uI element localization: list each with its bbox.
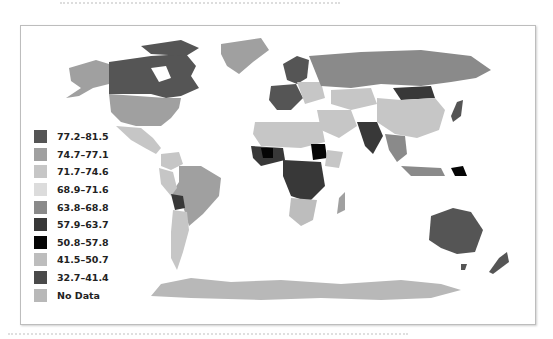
legend-item: 68.9–71.6 bbox=[34, 181, 109, 199]
legend-item: No Data bbox=[34, 286, 109, 304]
legend-swatch bbox=[34, 148, 47, 161]
legend-swatch bbox=[34, 218, 47, 231]
legend-swatch bbox=[34, 165, 47, 178]
region-tasmania bbox=[461, 264, 467, 270]
legend-swatch bbox=[34, 253, 47, 266]
region-kazakhstan bbox=[331, 88, 377, 110]
region-central-africa bbox=[283, 160, 325, 202]
legend-item: 63.8–68.8 bbox=[34, 198, 109, 216]
region-png bbox=[451, 166, 467, 176]
legend-item: 41.5–50.7 bbox=[34, 251, 109, 269]
region-indonesia bbox=[401, 166, 445, 176]
legend-label: 68.9–71.6 bbox=[57, 184, 109, 195]
region-mongolia bbox=[393, 86, 435, 100]
region-bolivia bbox=[171, 194, 185, 210]
legend-label: No Data bbox=[57, 290, 100, 301]
region-canada bbox=[109, 54, 199, 98]
region-alaska bbox=[66, 60, 109, 98]
region-mexico bbox=[116, 126, 161, 154]
legend-label: 57.9–63.7 bbox=[57, 219, 109, 230]
region-china bbox=[377, 98, 445, 138]
legend-swatch bbox=[34, 183, 47, 196]
legend-item: 74.7–77.1 bbox=[34, 146, 109, 164]
legend-swatch bbox=[34, 130, 47, 143]
legend-item: 32.7–41.4 bbox=[34, 269, 109, 287]
legend-label: 77.2–81.5 bbox=[57, 131, 109, 142]
legend-swatch bbox=[34, 236, 47, 249]
legend-item: 71.7–74.6 bbox=[34, 163, 109, 181]
region-arctic-islands bbox=[141, 40, 199, 56]
region-scandinavia bbox=[283, 56, 309, 84]
legend-label: 71.7–74.6 bbox=[57, 166, 109, 177]
map-legend: 77.2–81.5 74.7–77.1 71.7–74.6 68.9–71.6 … bbox=[34, 128, 109, 304]
region-usa bbox=[109, 94, 181, 126]
region-australia bbox=[429, 208, 483, 254]
region-mali bbox=[261, 148, 273, 158]
top-caption bbox=[60, 0, 340, 4]
region-india bbox=[357, 122, 383, 154]
legend-label: 74.7–77.1 bbox=[57, 149, 109, 160]
legend-label: 63.8–68.8 bbox=[57, 202, 109, 213]
region-madagascar bbox=[337, 192, 345, 214]
legend-label: 41.5–50.7 bbox=[57, 254, 109, 265]
legend-swatch bbox=[34, 289, 47, 302]
region-antarctica bbox=[151, 278, 461, 300]
bottom-caption bbox=[8, 333, 408, 339]
region-western-europe bbox=[269, 84, 303, 110]
region-russia bbox=[309, 50, 491, 88]
legend-label: 50.8–57.8 bbox=[57, 237, 109, 248]
region-japan bbox=[451, 100, 463, 122]
legend-label: 32.7–41.4 bbox=[57, 272, 109, 283]
legend-swatch bbox=[34, 201, 47, 214]
region-sudan bbox=[311, 144, 327, 160]
legend-item: 57.9–63.7 bbox=[34, 216, 109, 234]
region-southern-africa bbox=[289, 198, 317, 226]
legend-swatch bbox=[34, 271, 47, 284]
region-greenland bbox=[221, 38, 269, 74]
region-se-asia bbox=[385, 134, 407, 162]
region-new-zealand bbox=[489, 252, 509, 274]
legend-item: 77.2–81.5 bbox=[34, 128, 109, 146]
region-ethiopia bbox=[325, 150, 343, 168]
legend-item: 50.8–57.8 bbox=[34, 234, 109, 252]
region-argentina bbox=[171, 210, 189, 270]
map-frame: 77.2–81.5 74.7–77.1 71.7–74.6 68.9–71.6 … bbox=[20, 25, 536, 325]
